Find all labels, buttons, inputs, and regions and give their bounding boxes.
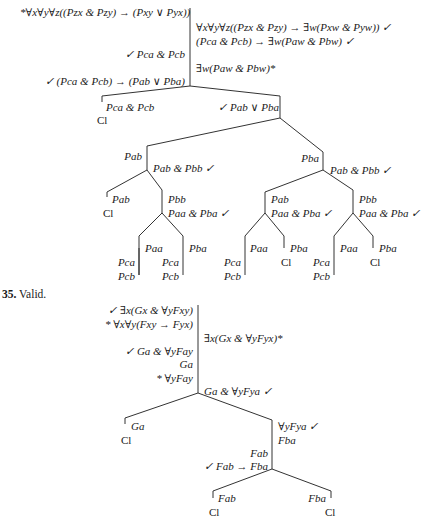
premise-formula: *∀x∀y∀z((Pzx & Pzy) → (Pxy ∨ Pyx)) [20,6,190,19]
branch-right-formula: ✓ Pab ∨ Pba [218,101,279,114]
negated-conclusion: ∀x∀y∀z((Pzx & Pzy) → ∃w(Pxw & Pyw)) ✓ [196,21,391,34]
p35-leaf-right: Fba [308,492,326,505]
n2-pab: Pab [271,193,289,206]
n3-pca: Pca [313,256,330,269]
p35-premise-1: ✓ ∃x(Gx & ∀yFxy) [108,304,193,317]
n1-conj: Paa & Pba ✓ [168,207,229,220]
problem-number: 35. [2,288,16,300]
p35-leaf-left: Fab [218,492,236,505]
p35-conditional: ✓ Fab → Fba [204,460,268,473]
n2-conj2: Paa & Pba ✓ [359,207,420,220]
n3-closed: Cl [370,256,380,269]
n1-closed: Cl [103,207,113,220]
p35-branch-left: Ga [131,420,144,433]
p35-instance: ✓ Ga & ∀yFay [125,345,193,358]
n3-pba: Pba [379,242,397,255]
p35-universal: * ∀yFay [156,372,193,385]
n1-pba: Pba [189,242,207,255]
node-pba: Pba [301,152,319,165]
n1-pbb: Pbb [168,193,186,206]
p35-leaf-left-closed: Cl [209,506,219,519]
n2-closed: Cl [281,256,291,269]
node-pba-conj: Pab & Pbb ✓ [330,164,391,177]
existential-line: ∃w(Paw & Pbw)* [196,62,275,75]
problem-heading: 35. Valid. [2,288,46,301]
n3-paa: Paa [340,242,358,255]
n2-conj: Paa & Pba ✓ [271,207,332,220]
n1-pcb-mid: Pcb [162,270,179,283]
n1-pcb-left: Pcb [118,270,135,283]
p35-premise-2: * ∀x∀y(Fxy → Fyx) [105,318,193,331]
n2-pbb: Pbb [359,193,377,206]
n1-pca-mid: Pca [162,256,179,269]
n1-pca-left: Pca [118,256,135,269]
p35-fab: Fab [250,447,268,460]
n2-pcb: Pcb [224,270,241,283]
conditional-line: ✓ (Pca & Pcb) → (Pab ∨ Pba) [45,75,185,88]
instantiated-conclusion: (Pca & Pcb) → ∃w(Paw & Pbw) ✓ [196,35,354,48]
node-pab: Pab [124,150,142,163]
problem-verdict: Valid. [19,288,46,300]
n1-pab: Pab [112,193,130,206]
p35-negated-conclusion: ∃x(Gx & ∀yFyx)* [204,332,283,345]
n2-paa: Paa [250,242,268,255]
p35-negated-instance: Ga & ∀yFya ✓ [204,385,272,398]
n3-pcb: Pcb [313,270,330,283]
n2-pba: Pba [290,242,308,255]
conjunction-line: ✓ Pca & Pcb [125,48,185,61]
p35-ga: Ga [180,358,193,371]
branch-left-formula: Pca & Pcb [106,101,154,114]
p35-branch-left-closed: Cl [121,434,131,447]
p35-leaf-right-closed: Cl [325,506,335,519]
p35-branch-right-2: Fba [278,434,296,447]
node-pab-conj: Pab & Pbb ✓ [153,162,214,175]
n2-pca: Pca [224,256,241,269]
closed-marker: Cl [97,114,107,127]
p35-branch-right-1: ∀yFya ✓ [278,420,318,433]
n1-paa: Paa [145,242,163,255]
